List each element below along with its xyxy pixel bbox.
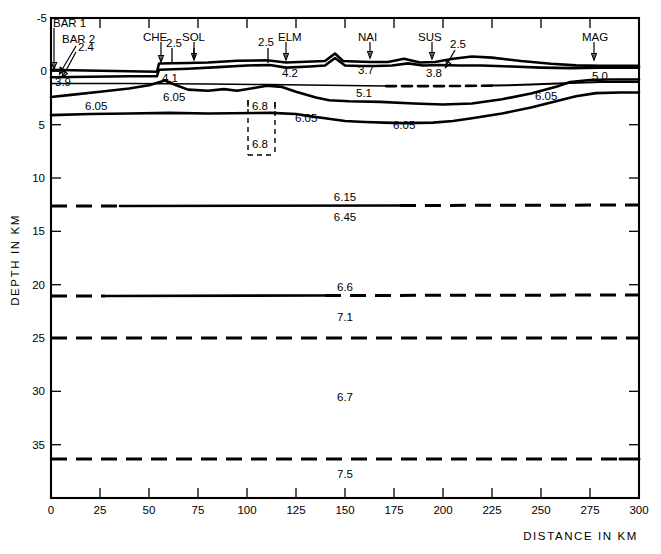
velocity-label-3.8: 3.8 [426, 67, 442, 79]
velocity-label-7.1: 7.1 [337, 311, 353, 323]
y-tick-labels: -5 0 5 10 15 20 25 30 35 [32, 12, 47, 451]
x-tick-275: 275 [580, 504, 599, 516]
x-tick-125: 125 [286, 504, 305, 516]
velocity-label-6.6: 6.6 [337, 281, 353, 293]
x-tick-labels: 0 25 50 75 100 125 150 175 200 225 250 2… [48, 504, 649, 516]
layer-5.1-base-dashed [386, 86, 492, 87]
layer-5.1-base-solid [51, 84, 386, 87]
layer-5.1-base-right-solid [492, 82, 639, 86]
x-tick-75: 75 [192, 504, 205, 516]
plot-canvas: DEPTH IN KM DISTANCE IN KM -5 0 5 10 15 … [0, 0, 661, 554]
station-label-che: CHE [143, 31, 168, 43]
x-tick-250: 250 [531, 504, 550, 516]
y-tick-10: 10 [32, 172, 45, 184]
x-tick-300: 300 [629, 504, 648, 516]
velocity-label-4.1: 4.1 [162, 72, 178, 84]
velocity-label-4.2: 4.2 [282, 67, 298, 79]
x-tick-100: 100 [237, 504, 256, 516]
interface-6.15-6.45 [51, 205, 639, 206]
velocity-label-6.05-d: 6.05 [393, 119, 415, 131]
station-label-nai: NAI [358, 31, 377, 43]
station-label-bar1: BAR 1 [53, 17, 86, 29]
velocity-labels: 2.4 2.5 2.5 2.5 3.9 4.1 4.2 3.7 3.8 5.0 … [55, 36, 608, 480]
interface-6.6-7.1 [51, 295, 639, 296]
station-label-sol: SOL [182, 31, 206, 43]
y-axis-ticks [51, 18, 639, 445]
velocity-label-2.5-a: 2.5 [166, 37, 182, 49]
station-label-sus: SUS [418, 31, 442, 43]
station-label-elm: ELM [278, 31, 302, 43]
velocity-label-2.5-b: 2.5 [258, 36, 274, 48]
velocity-label-6.05-a: 6.05 [85, 100, 107, 112]
y-tick-0: 0 [41, 65, 47, 77]
velocity-label-3.9: 3.9 [55, 76, 71, 88]
x-tick-200: 200 [433, 504, 452, 516]
seismic-cross-section-figure: DEPTH IN KM DISTANCE IN KM -5 0 5 10 15 … [0, 0, 661, 554]
y-tick-20: 20 [32, 279, 45, 291]
x-tick-225: 225 [482, 504, 501, 516]
velocity-label-6.15: 6.15 [334, 191, 356, 203]
velocity-label-5.1: 5.1 [356, 87, 372, 99]
velocity-label-6.7: 6.7 [337, 391, 353, 403]
velocity-label-3.7: 3.7 [358, 64, 374, 76]
velocity-label-5.0: 5.0 [592, 70, 608, 82]
x-tick-150: 150 [335, 504, 354, 516]
x-tick-175: 175 [384, 504, 403, 516]
x-tick-0: 0 [48, 504, 54, 516]
station-label-mag: MAG [582, 31, 608, 43]
y-tick-25: 25 [32, 332, 45, 344]
x-axis-ticks [100, 18, 590, 498]
x-tick-25: 25 [94, 504, 107, 516]
x-axis-title: DISTANCE IN KM [523, 530, 638, 542]
velocity-label-6.45: 6.45 [334, 211, 356, 223]
y-tick-35: 35 [32, 439, 45, 451]
y-tick-5: 5 [39, 119, 45, 131]
x-tick-50: 50 [143, 504, 156, 516]
velocity-label-6.8-upper: 6.8 [252, 100, 268, 112]
y-tick--5: -5 [37, 12, 47, 24]
velocity-label-7.5: 7.5 [337, 468, 353, 480]
y-axis-title: DEPTH IN KM [9, 214, 21, 306]
station-labels: BAR 1 BAR 2 CHE SOL ELM NAI SUS MAG [53, 17, 608, 45]
y-tick-30: 30 [32, 385, 45, 397]
velocity-label-2.4: 2.4 [78, 41, 95, 53]
y-tick-15: 15 [32, 225, 45, 237]
velocity-label-2.5-c: 2.5 [450, 38, 466, 50]
velocity-label-6.05-c: 6.05 [295, 112, 317, 124]
velocity-label-6.8-lower: 6.8 [252, 138, 268, 150]
velocity-label-6.05-b: 6.05 [163, 91, 185, 103]
velocity-label-6.05-e: 6.05 [535, 90, 557, 102]
